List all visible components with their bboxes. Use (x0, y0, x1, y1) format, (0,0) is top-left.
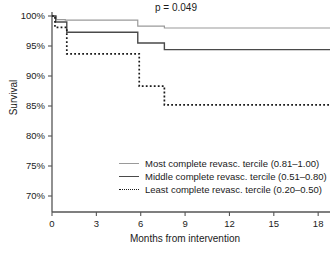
series-paths (52, 16, 330, 105)
series-line-0 (52, 16, 330, 28)
legend-label-least-complete: Least complete revasc. tercile (0.20–0.5… (145, 183, 322, 196)
x-tick-label: 15 (262, 219, 286, 229)
legend-label-middle-complete: Middle complete revasc. tercile (0.51–0.… (145, 170, 327, 183)
p-value-annotation: p = 0.049 (155, 2, 197, 13)
x-tick-label: 3 (84, 219, 108, 229)
series-line-1 (52, 16, 330, 50)
legend-item-most-complete: Most complete revasc. tercile (0.81–1.00… (118, 157, 328, 170)
y-tick-label: 75% (26, 161, 45, 171)
x-tick-label: 0 (40, 219, 64, 229)
legend-line-swatch-middle-complete (118, 171, 140, 183)
series-line-2 (52, 16, 330, 105)
legend-item-middle-complete: Middle complete revasc. tercile (0.51–0.… (118, 170, 328, 183)
kaplan-meier-survival-chart: 70%75%80%85%90%95%100% 0369121518 Surviv… (0, 0, 332, 254)
legend-label-most-complete: Most complete revasc. tercile (0.81–1.00… (145, 157, 319, 170)
x-tick-label: 18 (306, 219, 330, 229)
y-tick-label: 70% (26, 191, 45, 201)
chart-legend: Most complete revasc. tercile (0.81–1.00… (118, 157, 328, 196)
y-tick-label: 85% (26, 101, 45, 111)
x-tick-label: 9 (173, 219, 197, 229)
y-tick-label: 90% (26, 71, 45, 81)
y-axis-title: Survival (8, 63, 19, 133)
x-axis-title: Months from intervention (52, 233, 318, 244)
y-tick-label: 100% (21, 11, 45, 21)
y-tick-label: 95% (26, 41, 45, 51)
legend-line-swatch-least-complete (118, 184, 140, 196)
legend-line-swatch-most-complete (118, 158, 140, 170)
legend-item-least-complete: Least complete revasc. tercile (0.20–0.5… (118, 183, 328, 196)
plot-canvas (0, 0, 332, 254)
x-tick-label: 12 (217, 219, 241, 229)
x-tick-label: 6 (129, 219, 153, 229)
y-tick-label: 80% (26, 131, 45, 141)
